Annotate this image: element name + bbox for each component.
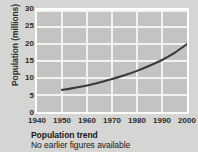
- x-tick-1960: 1960: [74, 116, 100, 126]
- y-tick-5: 5: [16, 92, 34, 100]
- y-axis-tick-labels: 051015202530: [16, 9, 34, 113]
- plot-area: [37, 10, 187, 112]
- x-tick-2000: 2000: [174, 116, 198, 126]
- population-curve: [37, 10, 187, 112]
- y-tick-30: 30: [16, 5, 34, 13]
- chart-caption: Population trend No earlier figures avai…: [31, 130, 196, 150]
- x-axis-tick-labels: 1940195019601970198019902000: [37, 116, 187, 128]
- population-trend-chart-figure: Population (millions) 051015202530 19401…: [0, 0, 198, 152]
- x-tick-1940: 1940: [24, 116, 50, 126]
- y-tick-10: 10: [16, 74, 34, 82]
- y-tick-15: 15: [16, 57, 34, 65]
- x-tick-1970: 1970: [99, 116, 125, 126]
- x-tick-1950: 1950: [49, 116, 75, 126]
- x-tick-1980: 1980: [124, 116, 150, 126]
- y-tick-20: 20: [16, 40, 34, 48]
- caption-note: No earlier figures available: [31, 140, 196, 150]
- caption-title: Population trend: [31, 130, 196, 140]
- x-tick-1990: 1990: [149, 116, 175, 126]
- y-tick-25: 25: [16, 22, 34, 30]
- plot-frame: [35, 8, 189, 114]
